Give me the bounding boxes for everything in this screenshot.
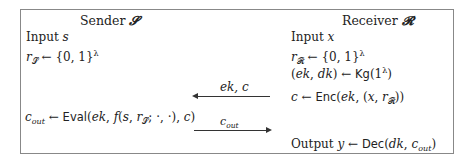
sender-eval: cout ← Eval(ek, f(s, r𝓢; ·, ·), c) bbox=[25, 110, 195, 129]
receiver-output: Output y ← Dec(dk, cout) bbox=[291, 137, 436, 156]
arrow-right-icon bbox=[194, 130, 270, 131]
receiver-encrypt: c ← Enc(ek, (x, r𝓡)) bbox=[291, 90, 404, 109]
message-label-c-out: cout bbox=[220, 115, 239, 130]
message-label-ek-c: ek, c bbox=[220, 80, 249, 94]
receiver-keygen: (ek, dk) ← Kg(1λ) bbox=[291, 64, 392, 81]
arrow-left-icon bbox=[194, 96, 270, 97]
sender-header: Sender 𝓢 bbox=[80, 14, 139, 28]
receiver-input: Input x bbox=[291, 30, 334, 44]
receiver-header: Receiver 𝓡 bbox=[342, 14, 414, 28]
sender-input: Input s bbox=[26, 30, 69, 44]
sender-randomness: r𝓢 ← {0, 1}λ bbox=[26, 47, 99, 69]
